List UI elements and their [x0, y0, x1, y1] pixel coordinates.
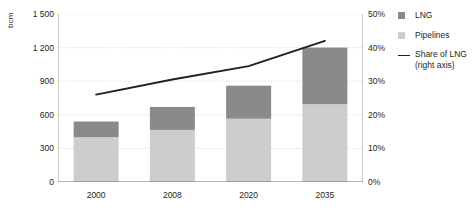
y-axis-right-tick-label: 0%: [368, 177, 408, 187]
legend-swatch-icon: [398, 32, 405, 39]
y-axis-left-tick-label: 0: [8, 177, 54, 187]
plot-svg: [58, 14, 363, 182]
legend-item-sublabel: (right axis): [415, 60, 474, 71]
x-axis-tick-label: 2035: [315, 190, 334, 200]
x-axis-ticks: 2000200820202035: [58, 186, 363, 200]
legend-item-label: Share of LNG(right axis): [415, 49, 474, 70]
y-axis-left-tick-label: 300: [8, 143, 54, 153]
plot-area: [58, 14, 363, 182]
y-axis-left-ticks: 03006009001 2001 500: [4, 14, 54, 182]
legend-line-marker: [398, 55, 410, 56]
y-axis-left-tick-label: 1 200: [8, 43, 54, 53]
chart-figure: bcm 03006009001 2001 500 0%10%20%30%40%5…: [0, 0, 474, 217]
x-axis-tick-label: 2000: [87, 190, 106, 200]
legend-item[interactable]: LNG: [398, 10, 474, 21]
x-axis-tick-label: 2020: [239, 190, 258, 200]
chart-legend: LNGPipelinesShare of LNG(right axis): [398, 10, 474, 80]
legend-swatch-icon: [398, 12, 405, 19]
x-axis-tick-label: 2008: [163, 190, 182, 200]
legend-item[interactable]: Pipelines: [398, 30, 474, 41]
y-axis-left-tick-label: 1 500: [8, 9, 54, 19]
legend-item[interactable]: Share of LNG(right axis): [398, 49, 474, 70]
y-axis-right-tick-label: 10%: [368, 143, 408, 153]
y-axis-right-tick-label: 20%: [368, 110, 408, 120]
legend-item-label: LNG: [415, 10, 474, 21]
legend-item-label: Pipelines: [415, 30, 474, 41]
y-axis-left-tick-label: 900: [8, 76, 54, 86]
y-axis-left-tick-label: 600: [8, 110, 54, 120]
